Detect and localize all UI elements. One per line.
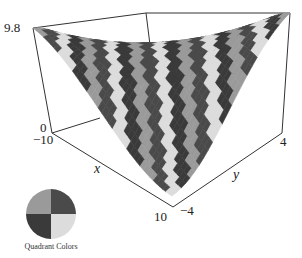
z-tick-max: 9.8 — [4, 21, 20, 34]
y-axis-label: y — [233, 168, 239, 182]
x-tick-min: −10 — [33, 133, 53, 146]
y-tick-min: −4 — [180, 204, 194, 217]
legend-caption: Quadrant Colors — [20, 242, 82, 251]
legend: Quadrant Colors — [20, 188, 82, 251]
surface-mesh — [33, 13, 290, 196]
x-axis-label: x — [94, 162, 100, 176]
y-tick-max: 4 — [280, 135, 287, 148]
quadrant-colors-pie-icon — [25, 188, 77, 240]
x-tick-max: 10 — [154, 210, 167, 223]
